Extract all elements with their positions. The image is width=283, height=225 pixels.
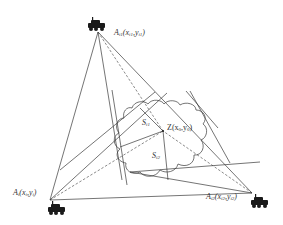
dashed-ai2-z (163, 131, 252, 193)
segment-z-down (163, 131, 168, 180)
tangent-left-diag (60, 92, 155, 170)
dashed-ai1-z (98, 32, 163, 131)
label-region-si2: Si2 (152, 152, 160, 160)
vehicle-icon (88, 17, 105, 31)
segment-z-left (120, 131, 163, 147)
label-ai2: Ai2(xi2,yi2) (206, 193, 237, 201)
cloud-obstacle (114, 100, 206, 176)
tangent-ai-upper (50, 93, 167, 200)
label-region-si1: Si1 (142, 119, 150, 127)
tangent-ai2-lower (130, 172, 252, 193)
tangent-ai1-left (98, 32, 122, 180)
label-ai: Ai(xi,yi) (13, 189, 37, 197)
target-point (162, 130, 164, 132)
vehicle-icon (251, 194, 268, 208)
label-ai1: Ai1(xi1,yi1) (114, 29, 145, 37)
vehicle-icon (48, 201, 65, 215)
tangent-right (190, 91, 230, 163)
label-target-z: Z(x0,y0) (167, 124, 192, 132)
tangent-bottom (130, 162, 260, 172)
